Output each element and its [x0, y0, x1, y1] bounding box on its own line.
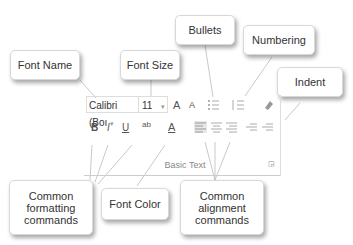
- bullets-icon[interactable]: [207, 99, 221, 111]
- highlight-button[interactable]: ab: [142, 120, 151, 129]
- font-color-button[interactable]: A: [168, 121, 175, 133]
- chevron-down-icon: ▾: [161, 103, 165, 110]
- callout-common-formatting: Common formatting commands: [9, 180, 93, 235]
- dialog-launcher-icon[interactable]: ◲: [268, 160, 275, 168]
- callout-label: Bullets: [188, 24, 221, 36]
- italic-button[interactable]: I: [107, 122, 110, 133]
- grow-font-button[interactable]: A: [173, 99, 180, 111]
- increase-indent-icon[interactable]: [261, 121, 274, 133]
- group-label: Basic Text: [150, 160, 220, 170]
- shrink-font-button[interactable]: A: [189, 100, 195, 110]
- callout-numbering: Numbering: [243, 25, 315, 55]
- font-name-dropdown[interactable]: Calibri (Boı ▾: [86, 96, 139, 113]
- callout-bullets: Bullets: [175, 15, 235, 45]
- callout-font-size: Font Size: [120, 50, 180, 80]
- align-center-icon[interactable]: [210, 121, 223, 133]
- callout-font-name: Font Name: [10, 50, 80, 80]
- align-right-icon[interactable]: [225, 121, 238, 133]
- callout-label: Common alignment commands: [189, 190, 255, 226]
- callout-label: Indent: [295, 76, 326, 88]
- font-size-value: 11: [142, 100, 152, 111]
- align-left-icon[interactable]: [194, 121, 207, 133]
- callout-label: Font Name: [18, 59, 72, 71]
- font-size-dropdown[interactable]: 11 ▾: [138, 96, 168, 113]
- callout-label: Font Size: [127, 59, 173, 71]
- clear-formatting-icon[interactable]: [263, 99, 275, 111]
- callout-common-alignment: Common alignment commands: [180, 180, 264, 235]
- callout-label: Common formatting commands: [16, 190, 86, 226]
- callout-label: Font Color: [109, 198, 160, 210]
- underline-button[interactable]: U: [122, 122, 129, 133]
- callout-indent: Indent: [277, 67, 343, 97]
- bold-button[interactable]: B: [91, 122, 98, 133]
- numbering-icon[interactable]: [232, 99, 246, 111]
- callout-label: Numbering: [252, 34, 306, 46]
- callout-font-color: Font Color: [101, 188, 169, 220]
- decrease-indent-icon[interactable]: [245, 121, 258, 133]
- chevron-down-icon: ▾: [110, 120, 114, 127]
